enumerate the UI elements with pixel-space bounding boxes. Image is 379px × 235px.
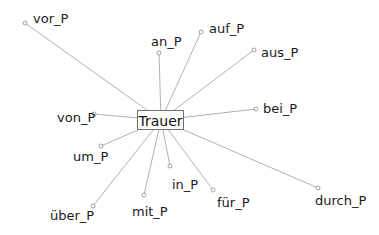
- node-dot-bei[interactable]: [254, 107, 258, 111]
- node-dot-in[interactable]: [168, 164, 172, 168]
- node-label-durch[interactable]: durch_P: [315, 194, 366, 208]
- node-label-an[interactable]: an_P: [151, 35, 182, 49]
- node-dot-an[interactable]: [157, 51, 161, 55]
- node-label-bei[interactable]: bei_P: [263, 102, 297, 116]
- node-label-fuer[interactable]: für_P: [217, 196, 250, 210]
- node-label-um[interactable]: um_P: [73, 150, 108, 164]
- edge-vor: [25, 23, 161, 120]
- node-label-ueber[interactable]: über_P: [50, 209, 94, 223]
- node-dot-vor[interactable]: [23, 21, 27, 25]
- node-dot-fuer[interactable]: [211, 188, 215, 192]
- node-label-in[interactable]: in_P: [172, 178, 198, 192]
- node-dot-mit[interactable]: [142, 193, 146, 197]
- node-dot-aus[interactable]: [252, 48, 256, 52]
- node-dot-durch[interactable]: [316, 186, 320, 190]
- node-label-von[interactable]: von_P: [57, 111, 95, 125]
- center-node-trauer[interactable]: Trauer: [137, 110, 184, 130]
- node-dot-um[interactable]: [99, 144, 103, 148]
- node-dot-auf[interactable]: [199, 30, 203, 34]
- node-label-mit[interactable]: mit_P: [132, 205, 168, 219]
- node-label-vor[interactable]: vor_P: [33, 12, 68, 26]
- node-label-auf[interactable]: auf_P: [209, 22, 244, 36]
- node-label-aus[interactable]: aus_P: [261, 46, 298, 60]
